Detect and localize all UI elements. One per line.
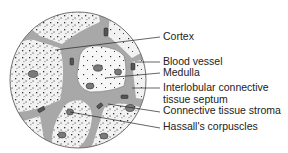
tissue-section: [0, 0, 160, 153]
label-hassalls-corpuscles: Hassall's corpuscles: [163, 121, 258, 132]
label-medulla: Medulla: [163, 67, 200, 78]
label-cortex: Cortex: [163, 31, 194, 42]
label-interlobular-septum-line1: Interlobular connective: [163, 82, 269, 93]
label-connective-tissue-stroma: Connective tissue stroma: [163, 105, 281, 116]
